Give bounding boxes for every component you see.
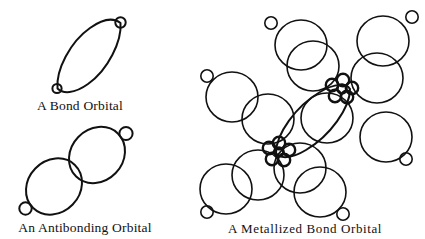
orbital-figure: A Bond Orbital An Antibonding Orbital [0, 0, 425, 239]
orbital-diagram-svg: A Bond Orbital An Antibonding Orbital [0, 0, 425, 239]
antibonding-orbital-caption: An Antibonding Orbital [18, 220, 151, 235]
metallized-bond-orbital-caption: A Metallized Bond Orbital [228, 221, 382, 236]
figure-background [0, 0, 425, 239]
bond-orbital-caption: A Bond Orbital [37, 98, 123, 113]
